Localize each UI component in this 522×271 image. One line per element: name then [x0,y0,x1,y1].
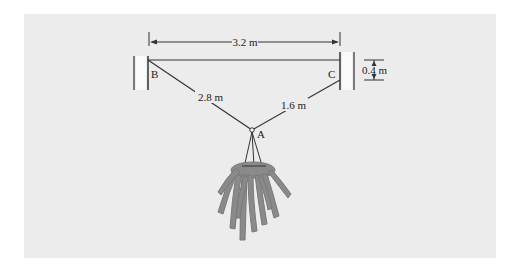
ring-A [250,128,254,132]
point-A-label: A [257,128,265,140]
statics-diagram: 3.2 m 0.4 m 2.8 m 1.6 m B C A [0,0,522,271]
left-wall [134,56,148,90]
height-dimension: 0.4 m [362,60,388,80]
cable-AB-label: 2.8 m [198,91,224,103]
height-label: 0.4 m [362,64,388,76]
hanging-plant [218,162,291,240]
point-C-label: C [328,68,335,80]
span-label: 3.2 m [232,36,258,48]
cable-AC-label: 1.6 m [281,99,307,111]
point-B-label: B [151,68,158,80]
span-dimension: 3.2 m [149,32,340,48]
right-wall [340,52,354,90]
